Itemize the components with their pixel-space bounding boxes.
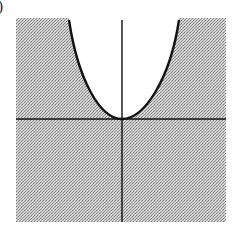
region-plot [0, 0, 236, 225]
